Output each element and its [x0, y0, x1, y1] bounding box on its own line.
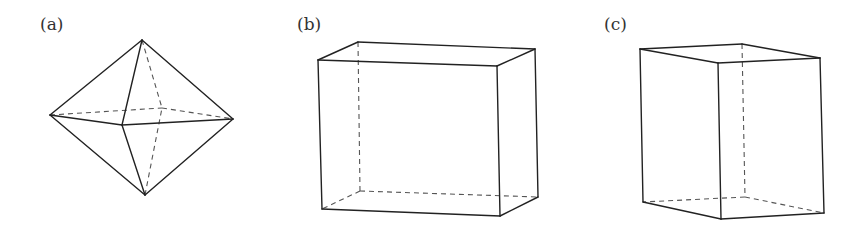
- visible-edge: [50, 40, 142, 115]
- box-figure-b: [318, 42, 538, 216]
- visible-edge: [718, 63, 721, 219]
- visible-edge: [535, 49, 538, 197]
- visible-edge: [358, 42, 535, 49]
- hidden-edge: [360, 191, 538, 197]
- visible-edge: [122, 40, 142, 125]
- figures-canvas: [0, 0, 856, 228]
- visible-edge: [318, 60, 322, 209]
- visible-edge: [318, 42, 358, 60]
- visible-edge: [742, 44, 820, 58]
- visible-edge: [145, 119, 233, 195]
- visible-edge: [718, 58, 820, 63]
- box-figure-c: [640, 44, 824, 219]
- visible-edge: [142, 40, 233, 119]
- visible-edge: [640, 49, 643, 202]
- hidden-edge: [358, 42, 360, 191]
- hidden-edge: [322, 191, 360, 209]
- visible-edge: [497, 49, 535, 66]
- visible-edge: [322, 209, 500, 216]
- hidden-edge: [742, 44, 745, 197]
- visible-edge: [497, 66, 500, 216]
- hidden-edge: [142, 40, 162, 108]
- figure-label-c: (c): [604, 14, 627, 34]
- visible-edge: [640, 44, 742, 49]
- visible-edge: [122, 119, 233, 125]
- visible-edge: [640, 49, 718, 63]
- hidden-edge: [745, 197, 824, 213]
- figure-label-a: (a): [40, 14, 63, 34]
- hidden-edge: [643, 197, 745, 202]
- visible-edge: [50, 115, 145, 195]
- figure-label-b: (b): [297, 14, 321, 34]
- visible-edge: [820, 58, 824, 213]
- visible-edge: [500, 197, 538, 216]
- visible-edge: [721, 213, 824, 219]
- visible-edge: [643, 202, 721, 219]
- octahedron-figure-a: [50, 40, 233, 195]
- visible-edge: [318, 60, 497, 66]
- hidden-edge: [50, 108, 162, 115]
